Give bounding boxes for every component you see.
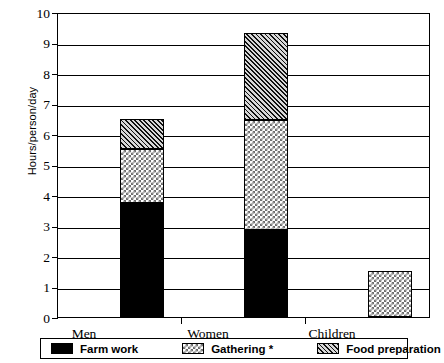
y-tick-label-2: 2 bbox=[22, 251, 50, 265]
y-tick-label-10: 10 bbox=[22, 7, 50, 21]
legend-swatch-farm-work-icon bbox=[51, 343, 73, 354]
bar-men-segment-farm-work[interactable] bbox=[120, 203, 164, 317]
legend-label-food-preparation: Food preparation bbox=[346, 343, 441, 355]
bar-men[interactable] bbox=[120, 119, 164, 317]
bar-children[interactable] bbox=[368, 271, 412, 317]
bar-women-segment-food-preparation[interactable] bbox=[244, 33, 288, 120]
bar-women-segment-gathering[interactable] bbox=[244, 120, 288, 230]
legend-item-gathering[interactable]: Gathering * bbox=[182, 343, 273, 355]
bar-children-segment-gathering[interactable] bbox=[368, 271, 412, 317]
bar-chart: Hours/person/day 10 9 8 7 6 5 4 3 2 1 0 bbox=[0, 0, 444, 363]
legend-swatch-food-preparation-icon bbox=[317, 343, 339, 354]
bar-men-segment-food-preparation[interactable] bbox=[120, 119, 164, 150]
y-tick-label-9: 9 bbox=[22, 37, 50, 51]
y-tick-label-5: 5 bbox=[22, 159, 50, 173]
y-tick-mark-0 bbox=[52, 318, 58, 319]
y-tick-label-0: 0 bbox=[22, 312, 50, 326]
y-tick-label-1: 1 bbox=[22, 281, 50, 295]
plot-area bbox=[57, 13, 430, 318]
legend-label-gathering: Gathering * bbox=[211, 343, 273, 355]
bar-women[interactable] bbox=[244, 33, 288, 317]
bars-layer bbox=[58, 14, 429, 317]
y-tick-label-3: 3 bbox=[22, 220, 50, 234]
y-tick-label-4: 4 bbox=[22, 190, 50, 204]
x-tick-mark-1 bbox=[181, 318, 182, 324]
legend-item-farm-work[interactable]: Farm work bbox=[51, 343, 138, 355]
legend-item-food-preparation[interactable]: Food preparation bbox=[317, 343, 441, 355]
x-tick-mark-2 bbox=[305, 318, 306, 324]
legend: Farm work Gathering * Food preparation bbox=[40, 338, 408, 359]
y-tick-label-6: 6 bbox=[22, 129, 50, 143]
bar-women-segment-farm-work[interactable] bbox=[244, 230, 288, 317]
y-tick-label-8: 8 bbox=[22, 68, 50, 82]
legend-label-farm-work: Farm work bbox=[80, 343, 138, 355]
bar-men-segment-gathering[interactable] bbox=[120, 149, 164, 202]
y-tick-label-7: 7 bbox=[22, 98, 50, 112]
legend-swatch-gathering-icon bbox=[182, 343, 204, 354]
